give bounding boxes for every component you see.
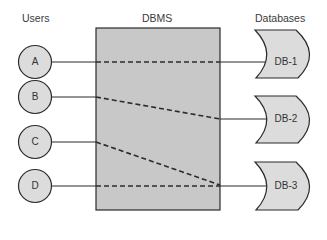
- dbms-box: [96, 28, 220, 210]
- user-c-label: C: [25, 136, 45, 147]
- db2-label: DB-2: [268, 113, 304, 124]
- user-b-label: B: [25, 91, 45, 102]
- user-a-label: A: [25, 56, 45, 67]
- db3-label: DB-3: [268, 180, 304, 191]
- user-d-label: D: [25, 180, 45, 191]
- db1-label: DB-1: [268, 56, 304, 67]
- db1-shape: [255, 30, 310, 78]
